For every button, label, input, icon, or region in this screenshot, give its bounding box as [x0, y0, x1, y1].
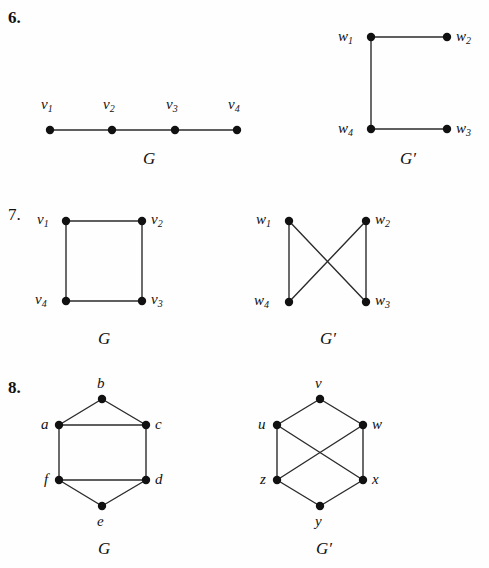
vertex-label-b: b: [97, 376, 105, 391]
vertex-label-subscript: 4: [264, 299, 269, 310]
vertex-w3: [362, 298, 370, 306]
vertex-label-e: e: [97, 514, 104, 529]
vertex-label-subscript: 2: [110, 103, 115, 114]
vertex-label-subscript: 1: [348, 35, 353, 46]
vertex-label-w4: w4: [254, 293, 269, 308]
vertex-w1: [285, 217, 293, 225]
edge-v-w: [320, 399, 363, 425]
vertex-label-v1: v1: [41, 97, 53, 112]
vertex-w3: [443, 125, 451, 133]
vertex-label-v2: v2: [151, 212, 163, 227]
vertex-label-subscript: 3: [158, 298, 163, 309]
vertex-label-subscript: 2: [466, 35, 471, 46]
vertex-label-c: c: [155, 417, 162, 432]
vertex-label-subscript: 4: [235, 103, 240, 114]
edge-w1-w3: [289, 221, 366, 302]
vertex-w4: [285, 298, 293, 306]
vertex-label-v4: v4: [228, 97, 240, 112]
vertex-v2: [138, 217, 146, 225]
vertex-w2: [443, 33, 451, 41]
vertex-label-v4: v4: [35, 292, 47, 307]
vertex-label-w3: w3: [375, 293, 390, 308]
vertex-b: [98, 395, 106, 403]
problem-number-7: 7.: [8, 205, 21, 225]
vertex-label-u: u: [258, 417, 266, 432]
graph-G-problem-6: [46, 126, 241, 134]
vertex-w: [359, 421, 367, 429]
vertex-z: [273, 476, 281, 484]
vertex-v3: [171, 126, 179, 134]
edge-z-w: [277, 425, 363, 480]
graph-Gprime-problem-7: [285, 217, 370, 306]
vertex-label-subscript: 1: [266, 218, 271, 229]
edge-y-x: [320, 480, 363, 506]
graph-G-problem-8: [55, 395, 150, 510]
vertex-label-w3: w3: [456, 121, 471, 136]
vertex-w1: [367, 33, 375, 41]
graph-Gprime-problem-6: [367, 33, 451, 133]
graph-name-label: G: [98, 330, 110, 347]
vertex-label-subscript: 1: [44, 218, 49, 229]
vertex-v: [316, 395, 324, 403]
vertex-y: [316, 502, 324, 510]
vertex-label-subscript: 2: [158, 218, 163, 229]
graph-name-label: G: [98, 540, 110, 557]
problem-number-6: 6.: [8, 8, 21, 28]
edge-e-d: [102, 480, 146, 506]
vertex-v4: [62, 297, 70, 305]
vertex-label-f: f: [44, 472, 48, 487]
edge-f-e: [59, 480, 102, 506]
graph-name-label: G′: [320, 330, 336, 347]
vertex-u: [273, 421, 281, 429]
edge-z-y: [277, 480, 320, 506]
vertex-label-subscript: 3: [173, 103, 178, 114]
vertex-label-v2: v2: [103, 97, 115, 112]
vertex-d: [142, 476, 150, 484]
vertex-label-v3: v3: [151, 292, 163, 307]
vertex-label-v3: v3: [166, 97, 178, 112]
graph-G-problem-7: [62, 217, 146, 305]
vertex-label-v1: v1: [37, 212, 49, 227]
edge-a-b: [59, 399, 102, 425]
graph-name-label: G′: [400, 150, 416, 167]
vertex-label-w1: w1: [338, 29, 353, 44]
vertex-label-subscript: 3: [385, 299, 390, 310]
edge-u-v: [277, 399, 320, 425]
edge-u-x: [277, 425, 363, 480]
vertex-label-v: v: [315, 376, 322, 391]
vertex-label-z: z: [260, 472, 266, 487]
vertex-e: [98, 502, 106, 510]
problem-number-8: 8.: [8, 378, 21, 398]
edge-w2-w4: [289, 221, 366, 302]
vertex-x: [359, 476, 367, 484]
vertex-v3: [138, 297, 146, 305]
vertex-label-d: d: [155, 472, 163, 487]
vertex-c: [142, 421, 150, 429]
vertex-label-w4: w4: [338, 121, 353, 136]
vertex-label-a: a: [41, 417, 49, 432]
graph-name-label: G: [143, 150, 155, 167]
vertex-label-subscript: 4: [348, 127, 353, 138]
vertex-label-w2: w2: [456, 29, 471, 44]
figure-page: 6. 7. 8. v1v2v3v4Gw1w2w3w4G′v1v2v3v4Gw1w…: [0, 0, 489, 568]
graph-Gprime-problem-8: [273, 395, 367, 510]
graph-name-label: G′: [316, 540, 332, 557]
vertex-label-subscript: 1: [48, 103, 53, 114]
vertex-w2: [362, 217, 370, 225]
graph-drawing-canvas: [0, 0, 489, 568]
vertex-label-w1: w1: [256, 212, 271, 227]
vertex-label-subscript: 2: [385, 218, 390, 229]
vertex-label-x: x: [372, 472, 379, 487]
vertex-label-w: w: [372, 417, 382, 432]
vertex-f: [55, 476, 63, 484]
vertex-label-subscript: 4: [42, 298, 47, 309]
vertex-w4: [367, 125, 375, 133]
vertex-a: [55, 421, 63, 429]
vertex-v1: [62, 217, 70, 225]
edge-b-c: [102, 399, 146, 425]
vertex-v1: [46, 126, 54, 134]
vertex-label-y: y: [315, 514, 322, 529]
vertex-label-w2: w2: [375, 212, 390, 227]
vertex-label-subscript: 3: [466, 127, 471, 138]
vertex-v2: [108, 126, 116, 134]
